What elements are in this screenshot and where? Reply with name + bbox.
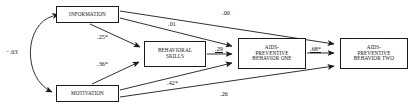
coefficient-label-motivation-to-behavior-two: .26 (220, 90, 228, 97)
node-information-label: INFORMATION (69, 12, 106, 18)
node-aids-preventive-behavior-one-label: AIDS- PREVENTIVE BEHAVIOR ONE (252, 45, 291, 62)
node-motivation[interactable]: MOTIVATION (56, 85, 119, 102)
coefficient-label-behavioral-skills-to-behavior-one: .29 (215, 45, 223, 53)
node-aids-preventive-behavior-one[interactable]: AIDS- PREVENTIVE BEHAVIOR ONE (238, 38, 306, 69)
coefficient-label-correlation: −.03 (6, 48, 18, 55)
path-arrow-correlation (30, 16, 53, 92)
coefficient-label-motivation-to-behavior-one: .42* (167, 79, 178, 86)
coefficient-label-behavior-one-to-behavior-two: .68* (310, 45, 321, 53)
node-aids-preventive-behavior-two[interactable]: AIDS- PREVENTIVE BEHAVIOR TWO (340, 38, 408, 69)
path-diagram: INFORMATION MOTIVATION BEHAVIORAL SKILLS… (0, 0, 414, 109)
node-behavioral-skills[interactable]: BEHAVIORAL SKILLS (144, 41, 206, 67)
coefficient-label-information-to-behavior-two: .00 (222, 9, 230, 16)
node-behavioral-skills-label: BEHAVIORAL SKILLS (158, 48, 192, 60)
node-motivation-label: MOTIVATION (71, 91, 104, 97)
node-information[interactable]: INFORMATION (56, 6, 119, 23)
coefficient-label-information-to-behavioral-skills: .25* (97, 33, 108, 40)
coefficient-label-information-to-behavior-one: .01 (168, 20, 176, 27)
coefficient-label-motivation-to-behavioral-skills: .36* (97, 60, 108, 67)
node-aids-preventive-behavior-two-label: AIDS- PREVENTIVE BEHAVIOR TWO (354, 45, 394, 62)
